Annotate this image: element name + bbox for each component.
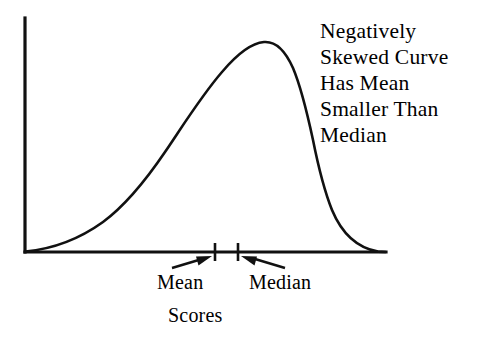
caption-line-2: Skewed Curve: [320, 45, 448, 69]
caption-line-1: Negatively: [320, 19, 416, 43]
caption-line-3: Has Mean: [320, 71, 409, 95]
caption-line-4: Smaller Than: [320, 97, 438, 121]
negatively-skewed-curve-figure: Negatively Skewed Curve Has Mean Smaller…: [0, 0, 487, 348]
median-arrow: [241, 256, 285, 268]
median-label: Median: [249, 271, 311, 293]
x-axis-title: Scores: [168, 304, 223, 326]
mean-label: Mean: [157, 271, 203, 293]
mean-arrow: [172, 256, 212, 268]
caption-block: Negatively Skewed Curve Has Mean Smaller…: [320, 19, 448, 147]
caption-line-5: Median: [320, 123, 387, 147]
